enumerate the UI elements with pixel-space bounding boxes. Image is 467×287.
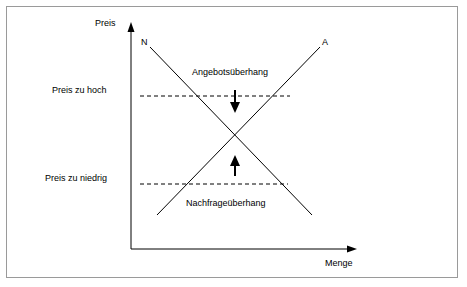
price-too-low-label: Preis zu niedrig [45,173,107,184]
y-axis-label: Preis [95,18,116,29]
excess-supply-label: Angebotsüberhang [192,67,268,78]
diagram-page: Preis Menge N A Preis zu hoch Preis zu n… [0,0,467,287]
excess-demand-label: Nachfrageüberhang [186,198,266,209]
excess-demand-arrow-icon [230,155,240,176]
excess-supply-arrow-icon [230,90,240,113]
x-axis-arrowhead [347,246,357,253]
y-axis-arrowhead [128,22,135,32]
x-axis-label: Menge [325,258,353,269]
price-too-high-label: Preis zu hoch [52,85,107,96]
diagram-canvas [0,0,467,287]
demand-curve-label: N [141,37,148,48]
supply-curve-label: A [322,37,328,48]
